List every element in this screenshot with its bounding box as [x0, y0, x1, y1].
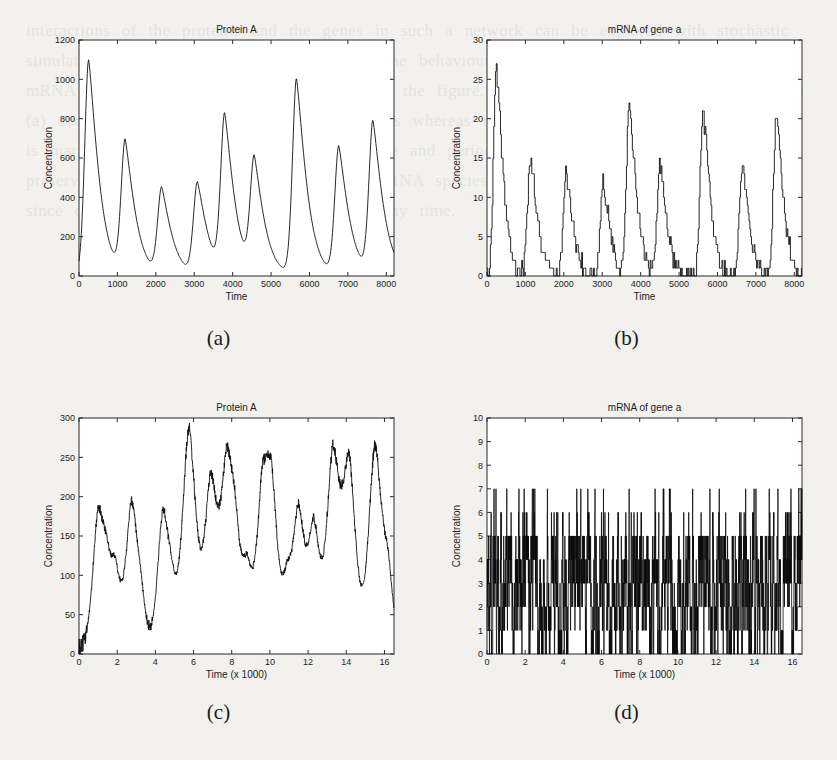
caption-a: (a): [26, 326, 411, 351]
y-tick-label: 1200: [55, 35, 75, 45]
y-tick-label: 0: [70, 271, 75, 281]
x-tick-label: 10: [265, 657, 275, 667]
x-tick-label: 5000: [669, 279, 689, 289]
x-tick-label: 16: [379, 657, 389, 667]
x-tick-label: 14: [749, 657, 759, 667]
y-tick-label: 200: [60, 492, 75, 502]
y-tick-label: 1: [478, 626, 483, 636]
y-tick-label: 100: [60, 571, 75, 581]
y-tick-label: 0: [478, 649, 483, 659]
x-tick-label: 8000: [376, 279, 396, 289]
y-tick-label: 25: [473, 75, 483, 85]
x-tick-label: 8000: [784, 279, 804, 289]
caption-d: (d): [434, 700, 819, 725]
x-axis-label: Time: [226, 291, 248, 302]
plot-title: mRNA of gene a: [608, 402, 682, 413]
x-tick-label: 16: [787, 657, 797, 667]
y-axis-label: Concentration: [451, 505, 462, 567]
plot-frame: [79, 418, 394, 654]
y-tick-label: 15: [473, 153, 483, 163]
x-tick-label: 7000: [746, 279, 766, 289]
y-axis-label: Concentration: [43, 127, 54, 189]
y-tick-label: 10: [473, 413, 483, 423]
y-tick-label: 20: [473, 114, 483, 124]
y-tick-label: 0: [478, 271, 483, 281]
y-tick-label: 5: [478, 232, 483, 242]
x-tick-label: 2: [523, 657, 528, 667]
y-tick-label: 4: [478, 555, 483, 565]
plot-title: Protein A: [216, 402, 257, 413]
x-tick-label: 12: [303, 657, 313, 667]
x-tick-label: 7000: [338, 279, 358, 289]
plot-a-svg: 0100020003000400050006000700080000200400…: [26, 8, 411, 318]
x-tick-label: 6000: [299, 279, 319, 289]
y-tick-label: 800: [60, 114, 75, 124]
x-tick-label: 6000: [707, 279, 727, 289]
y-tick-label: 6: [478, 508, 483, 518]
x-tick-label: 4000: [631, 279, 651, 289]
x-tick-label: 12: [711, 657, 721, 667]
figure-sheet: 0100020003000400050006000700080000200400…: [0, 0, 837, 760]
x-tick-label: 8: [637, 657, 642, 667]
caption-c: (c): [26, 700, 411, 725]
y-tick-label: 400: [60, 193, 75, 203]
x-tick-label: 2000: [146, 279, 166, 289]
x-tick-label: 1000: [107, 279, 127, 289]
x-tick-label: 6: [191, 657, 196, 667]
x-tick-label: 0: [484, 657, 489, 667]
plot-b-svg: 0100020003000400050006000700080000510152…: [434, 8, 819, 318]
x-tick-label: 5000: [261, 279, 281, 289]
plot-title: Protein A: [216, 24, 257, 35]
x-tick-label: 10: [673, 657, 683, 667]
x-tick-label: 14: [341, 657, 351, 667]
y-tick-label: 9: [478, 437, 483, 447]
x-axis-label: Time (x 1000): [614, 669, 675, 680]
plot-frame: [79, 40, 394, 276]
panel-b-mrna-gene-a-deterministic: 0100020003000400050006000700080000510152…: [434, 8, 819, 318]
y-tick-label: 600: [60, 153, 75, 163]
y-tick-label: 3: [478, 579, 483, 589]
x-tick-label: 4: [153, 657, 158, 667]
x-tick-label: 0: [76, 279, 81, 289]
y-tick-label: 2: [478, 602, 483, 612]
x-tick-label: 8: [229, 657, 234, 667]
y-tick-label: 50: [65, 610, 75, 620]
x-tick-label: 1000: [515, 279, 535, 289]
y-axis-label: Concentration: [451, 127, 462, 189]
y-tick-label: 200: [60, 232, 75, 242]
y-tick-label: 10: [473, 193, 483, 203]
x-tick-label: 0: [484, 279, 489, 289]
y-tick-label: 1000: [55, 75, 75, 85]
plot-c-svg: 0246810121416050100150200250300Protein A…: [26, 386, 411, 696]
y-tick-label: 300: [60, 413, 75, 423]
x-tick-label: 2000: [554, 279, 574, 289]
plot-title: mRNA of gene a: [608, 24, 682, 35]
caption-b: (b): [434, 326, 819, 351]
y-tick-label: 5: [478, 531, 483, 541]
y-tick-label: 30: [473, 35, 483, 45]
panel-c-protein-a-stochastic: 0246810121416050100150200250300Protein A…: [26, 386, 411, 696]
x-tick-label: 4000: [223, 279, 243, 289]
y-tick-label: 250: [60, 453, 75, 463]
panel-d-mrna-gene-a-stochastic: 0246810121416012345678910mRNA of gene aT…: [434, 386, 819, 696]
y-tick-label: 0: [70, 649, 75, 659]
y-axis-label: Concentration: [43, 505, 54, 567]
plot-d-svg: 0246810121416012345678910mRNA of gene aT…: [434, 386, 819, 696]
x-tick-label: 3000: [592, 279, 612, 289]
y-tick-label: 8: [478, 461, 483, 471]
x-tick-label: 2: [115, 657, 120, 667]
y-tick-label: 7: [478, 484, 483, 494]
plot-frame: [487, 40, 802, 276]
x-axis-label: Time (x 1000): [206, 669, 267, 680]
x-axis-label: Time: [634, 291, 656, 302]
x-tick-label: 4: [561, 657, 566, 667]
x-tick-label: 3000: [184, 279, 204, 289]
x-tick-label: 0: [76, 657, 81, 667]
x-tick-label: 6: [599, 657, 604, 667]
y-tick-label: 150: [60, 531, 75, 541]
panel-a-protein-a-deterministic: 0100020003000400050006000700080000200400…: [26, 8, 411, 318]
